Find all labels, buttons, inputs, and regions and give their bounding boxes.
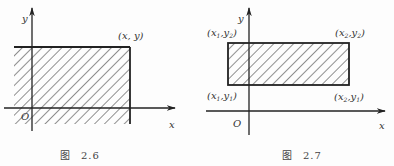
fig27-caption: 图2.7 [282, 147, 322, 162]
figure-page: y x O (x, y) 图2.6 y x O (x1,y2) (x2,y2) … [0, 0, 394, 166]
caption-prefix: 图 [282, 150, 293, 161]
fig27-y-axis-label: y [238, 14, 244, 24]
fig26-x-axis-label: x [169, 120, 175, 130]
fig27-top-left-label: (x1,y2) [207, 28, 237, 39]
fig27-top-right-label: (x2,y2) [335, 28, 365, 39]
fig26-y-axis-label: y [22, 14, 28, 24]
fig26-corner-label: (x, y) [118, 31, 143, 41]
figure-2-6 [4, 8, 175, 131]
fig27-origin-label: O [233, 119, 241, 129]
fig26-caption: 图2.6 [60, 147, 100, 162]
fig27-bottom-right-label: (x2,y1) [334, 92, 364, 103]
figures-canvas [0, 0, 394, 166]
shaded-rectangle [228, 43, 349, 85]
caption-number: 2.6 [81, 150, 100, 161]
fig27-bottom-left-label: (x1,y1) [207, 91, 237, 102]
caption-prefix: 图 [60, 150, 71, 161]
fig27-x-axis-label: x [379, 121, 385, 131]
caption-number: 2.7 [303, 150, 322, 161]
fig26-origin-label: O [21, 112, 29, 122]
